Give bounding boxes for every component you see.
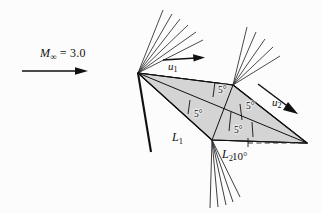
u2-subscript: 2: [278, 101, 282, 110]
angle-lower-rear: 5°: [234, 125, 243, 135]
L1-surface-label: L1: [172, 130, 183, 146]
mach-symbol: M: [40, 46, 50, 60]
leading-edge-oblique-shock: [138, 73, 151, 152]
angle-of-attack-label: 10°: [232, 150, 247, 162]
mach-value: = 3.0: [57, 46, 86, 60]
angle-upper-rear: 5°: [246, 101, 255, 111]
u1-subscript: 1: [174, 65, 178, 74]
midchord-upper-expansion-fan: [233, 27, 280, 85]
u2-velocity-label: u2: [272, 96, 282, 110]
angle-upper-front: 5°: [218, 85, 227, 95]
freestream-direction-arrow: [22, 67, 88, 75]
L1-subscript: 1: [179, 136, 183, 146]
freestream-mach-label: M∞ = 3.0: [40, 46, 86, 62]
L2-symbol: L: [222, 147, 229, 161]
u1-velocity-label: u1: [168, 60, 178, 74]
L1-symbol: L: [172, 130, 179, 144]
angle-lower-front: 5°: [194, 109, 203, 119]
supersonic-airfoil-figure: M∞ = 3.0 u1 u2 L1 L2 5° 5° 5° 5° 10°: [0, 0, 322, 213]
